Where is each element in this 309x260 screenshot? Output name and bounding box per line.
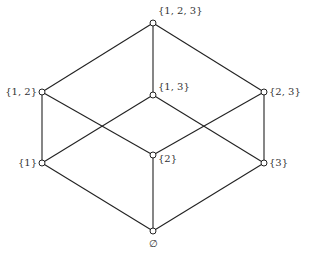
node-s12: [39, 89, 45, 95]
edge-s23-s2: [153, 92, 264, 155]
label-s2: {2}: [158, 153, 177, 164]
node-s23: [261, 89, 267, 95]
node-s13: [150, 92, 156, 98]
node-empty: [150, 228, 156, 234]
label-empty: ∅: [149, 238, 158, 249]
label-s23: {2, 3}: [269, 86, 301, 97]
label-top: {1, 2, 3}: [158, 5, 203, 16]
hasse-diagram: {1, 2, 3}{1, 2}{1, 3}{2, 3}{1}{2}{3}∅: [0, 0, 309, 260]
node-s2: [150, 152, 156, 158]
label-s13: {1, 3}: [158, 81, 190, 92]
edge-top-s12: [42, 23, 153, 92]
node-top: [150, 20, 156, 26]
edge-s13-s1: [42, 95, 153, 163]
edges: [42, 23, 264, 231]
node-s3: [261, 160, 267, 166]
edge-s12-s2: [42, 92, 153, 155]
label-s3: {3}: [269, 157, 288, 168]
label-s12: {1, 2}: [5, 86, 37, 97]
edge-s3-empty: [153, 163, 264, 231]
node-s1: [39, 160, 45, 166]
edge-s1-empty: [42, 163, 153, 231]
label-s1: {1}: [18, 157, 37, 168]
